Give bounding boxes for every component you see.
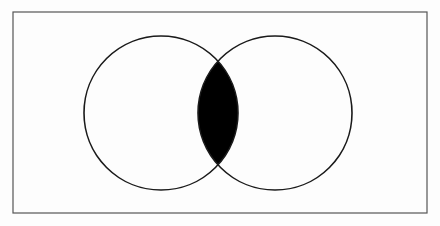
venn-diagram [0,0,440,226]
intersection-region [198,61,238,165]
